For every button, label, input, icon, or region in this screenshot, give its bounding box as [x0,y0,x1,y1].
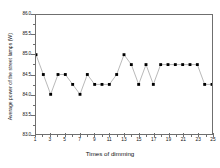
x-tick-mark [139,133,140,137]
x-tick-label: 23 [195,137,200,142]
x-tick-mark [198,133,199,137]
x-tick-mark [109,133,110,137]
y-tick-label: 83.5 [22,113,31,118]
x-tick-label: 11 [107,137,112,142]
x-tick-label: 9 [93,137,96,142]
x-minor-tick-mark [42,135,43,137]
x-tick-label: 13 [121,137,126,142]
x-tick-mark [183,133,184,137]
x-tick-label: 19 [166,137,171,142]
x-minor-tick-mark [206,135,207,137]
data-point-marker [71,83,74,86]
x-tick-mark [154,133,155,137]
data-point-marker [181,63,184,66]
x-minor-tick-mark [87,135,88,137]
data-point-marker [196,63,199,66]
data-point-marker [159,63,162,66]
series-line [36,55,212,95]
x-minor-tick-mark [57,135,58,137]
data-point-marker [115,73,118,76]
data-point-marker [211,83,212,86]
x-minor-tick-mark [102,135,103,137]
x-minor-tick-mark [176,135,177,137]
y-tick-label: 86.0 [22,12,31,17]
x-minor-tick-mark [191,135,192,137]
x-minor-tick-mark [146,135,147,137]
data-point-marker [49,93,52,96]
data-point-marker [79,93,82,96]
x-tick-label: 5 [63,137,66,142]
x-tick-mark [213,133,214,137]
data-point-marker [108,83,111,86]
x-tick-label: 7 [78,137,81,142]
chart-figure: Average power of the street lamps (W) 86… [0,0,220,168]
x-tick-mark [50,133,51,137]
data-point-marker [93,83,96,86]
data-point-marker [167,63,170,66]
data-point-marker [101,83,104,86]
x-tick-label: 1 [34,137,37,142]
data-point-marker [137,83,140,86]
data-point-marker [123,53,126,56]
plot-area [35,14,213,135]
data-point-marker [64,73,67,76]
data-series [36,15,212,134]
x-tick-label: 3 [48,137,51,142]
data-point-marker [145,63,148,66]
x-tick-mark [94,133,95,137]
x-tick-label: 17 [151,137,156,142]
x-tick-mark [169,133,170,137]
x-tick-mark [65,133,66,137]
y-tick-label: 85.5 [22,32,31,37]
x-tick-label: 15 [136,137,141,142]
x-tick-mark [124,133,125,137]
data-point-marker [203,83,206,86]
data-point-marker [86,73,89,76]
x-minor-tick-mark [131,135,132,137]
x-minor-tick-mark [72,135,73,137]
x-tick-mark [80,133,81,137]
data-point-marker [189,63,192,66]
data-point-marker [152,83,155,86]
x-minor-tick-mark [161,135,162,137]
data-point-marker [130,63,133,66]
data-point-marker [57,73,60,76]
x-minor-tick-mark [117,135,118,137]
data-point-marker [174,63,177,66]
data-point-marker [36,53,37,56]
x-tick-label: 25 [210,137,215,142]
x-tick-mark [35,133,36,137]
y-tick-label: 84.0 [22,92,31,97]
y-tick-label: 84.5 [22,72,31,77]
x-tick-label: 21 [181,137,186,142]
y-tick-label: 85.0 [22,52,31,57]
data-point-marker [42,73,45,76]
x-axis-tick-labels: 135791113151719212325 [0,137,220,147]
x-axis-title: Times of dimming [0,150,220,157]
